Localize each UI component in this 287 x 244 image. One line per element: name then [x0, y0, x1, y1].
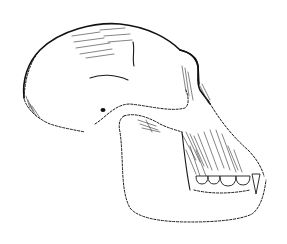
ear-opening: [101, 108, 106, 112]
tooth-molar-1: [220, 176, 236, 186]
tooth-molar-2: [236, 176, 250, 185]
tooth-premolar-1: [196, 176, 208, 184]
mandible-outline: [119, 116, 266, 222]
tooth-premolar-2: [208, 176, 220, 184]
lower-tooth-row: [194, 190, 250, 193]
maxilla-edge: [182, 132, 190, 190]
tooth-canine: [252, 174, 260, 194]
maxilla-hatching: [182, 130, 242, 176]
mandible-notch: [124, 115, 182, 132]
brow-ridge: [180, 50, 210, 104]
temporal-line: [90, 75, 128, 80]
skull-illustration: Line drawing of a primate skull in later…: [0, 0, 287, 244]
coronal-suture: [133, 42, 134, 66]
cranium-back-outline: [24, 50, 85, 132]
brow-hatching: [72, 28, 132, 58]
zygomatic-arch: [95, 90, 188, 124]
skull-drawing: [0, 0, 287, 244]
cranium-top-outline: [24, 24, 199, 98]
